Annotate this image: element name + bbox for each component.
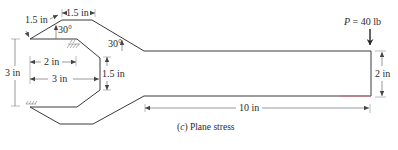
load-value: = 40 lb (350, 16, 381, 27)
load-arrow: P = 40 lb (343, 16, 381, 45)
dim-overall-height-label: 3 in (5, 67, 20, 78)
dim-inner-width-2-label: 2 in (44, 56, 59, 67)
load-symbol: P (343, 16, 350, 27)
dim-top-flat-label: 1.5 in (66, 7, 89, 18)
dim-beam-depth-label: 2 in (375, 68, 390, 79)
dim-beam-length-label: 10 in (239, 102, 259, 113)
dim-inner-width-3-label: 3 in (52, 73, 67, 84)
figure-caption: (c) Plane stress (177, 122, 235, 133)
upper-outer-edge (30, 20, 371, 51)
dim-throat-height-label: 1.5 in (102, 68, 125, 79)
fixed-support-upper-icon (67, 40, 80, 48)
dim-arm-slant-label: 1.5 in (25, 14, 48, 25)
angle-upper-label: 30° (58, 24, 72, 35)
dim-top-flat: 1.5 in (62, 7, 95, 18)
svg-text:P = 40 lb: P = 40 lb (343, 16, 381, 27)
angle-beam: 30° (108, 38, 122, 51)
fixed-support-lower-icon (26, 101, 37, 104)
dim-inner-width-3: 3 in (30, 73, 99, 84)
dim-overall-height: 3 in (5, 39, 20, 106)
dim-throat-height: 1.5 in (102, 57, 125, 90)
angle-beam-label: 30° (108, 38, 122, 49)
dim-beam-length: 10 in (145, 102, 370, 113)
dim-beam-depth: 2 in (375, 51, 390, 97)
plane-stress-figure: 1.5 in 1.5 in 30° 30° 3 in 2 in 3 in (0, 0, 398, 150)
part-outline (30, 20, 371, 124)
angle-upper: 30° (56, 24, 72, 39)
lower-outer-edge (30, 96, 371, 124)
